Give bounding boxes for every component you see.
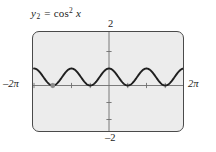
y-axis-max-label: 2 bbox=[108, 18, 113, 29]
function-label-name: cos bbox=[54, 7, 69, 19]
function-label: y2=cos2x bbox=[31, 6, 81, 21]
figure-container: y2=cos2x 2 –2 –2π 2π bbox=[0, 0, 216, 152]
y-axis-min-label: –2 bbox=[105, 132, 116, 143]
function-label-equals: = bbox=[40, 7, 53, 19]
x-axis-min-label: –2π bbox=[3, 78, 19, 89]
x-axis-max-pi-symbol: π bbox=[193, 78, 198, 89]
point-markers-group bbox=[51, 83, 55, 87]
x-axis-max-label: 2π bbox=[188, 78, 199, 89]
curve-point-marker bbox=[51, 83, 55, 87]
x-axis-min-pi-symbol: π bbox=[14, 78, 19, 89]
x-axis-min-number: –2 bbox=[3, 78, 14, 89]
axes-group bbox=[33, 32, 184, 132]
plot-canvas bbox=[33, 32, 184, 132]
graph-viewport bbox=[32, 31, 184, 132]
function-label-argument: x bbox=[73, 7, 81, 19]
